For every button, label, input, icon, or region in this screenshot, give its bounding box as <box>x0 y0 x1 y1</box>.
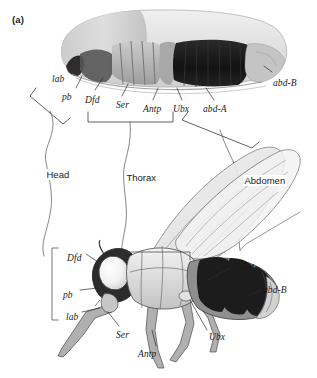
embryo-gene-label-abd-a: abd-A <box>203 104 227 114</box>
panel-label: (a) <box>12 14 24 25</box>
embryo-gene-label-pb: pb <box>62 92 72 102</box>
embryo-gene-label-antp: Antp <box>143 104 161 114</box>
body-region-label-head: Head <box>45 169 71 180</box>
embryo-gene-label-dfd: Dfd <box>85 95 100 105</box>
embryo-gene-label-ser: Ser <box>116 100 129 110</box>
adult-gene-label-pb: pb <box>63 290 73 300</box>
adult-gene-label-antp: Antp <box>138 349 156 359</box>
adult-gene-label-abd-a: abd-A <box>232 263 256 273</box>
embryo-illustration <box>61 10 286 94</box>
adult-gene-label-lab: lab <box>66 312 78 322</box>
body-region-label-abdomen: Abdomen <box>243 175 287 186</box>
adult-gene-label-dfd: Dfd <box>67 253 82 263</box>
embryo-gene-label-ubx: Ubx <box>173 104 189 114</box>
figure-artwork <box>0 0 317 378</box>
adult-gene-label-ser: Ser <box>116 330 129 340</box>
embryo-gene-label-abd-b: abd-B <box>273 78 297 88</box>
adult-gene-label-abd-b: abd-B <box>263 285 287 295</box>
embryo-gene-label-lab: lab <box>52 74 64 84</box>
adult-gene-label-ubx: Ubx <box>209 332 225 342</box>
body-region-label-thorax: Thorax <box>125 172 158 183</box>
figure-panel-a: (a) lab pb Dfd Ser Antp Ubx abd-A abd-B … <box>0 0 317 378</box>
